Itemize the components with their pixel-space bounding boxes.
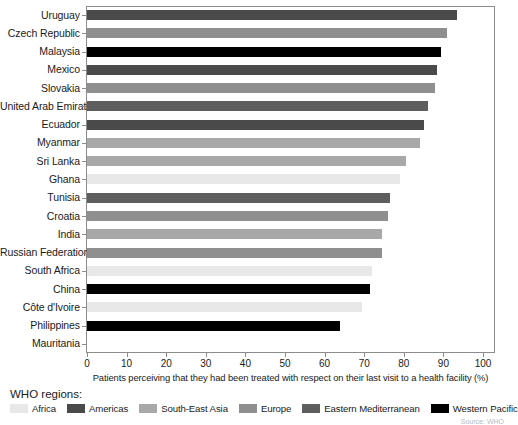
x-axis-tick xyxy=(87,353,88,357)
legend-title: WHO regions: xyxy=(10,388,510,400)
table-row: Croatia xyxy=(0,207,512,225)
table-row: Sri Lanka xyxy=(0,152,512,170)
bar-label-tunisia: Tunisia xyxy=(0,192,80,203)
bar-track xyxy=(87,43,441,61)
legend-swatch-icon xyxy=(67,404,85,413)
x-axis-tick-label: 0 xyxy=(84,358,90,369)
y-axis-tick xyxy=(82,125,86,126)
table-row: South Africa xyxy=(0,262,512,280)
x-axis-tick xyxy=(245,353,246,357)
y-axis-tick xyxy=(82,52,86,53)
bar-label-china: China xyxy=(0,284,80,295)
table-row: United Arab Emirates xyxy=(0,97,512,115)
source-note: Source: WHO xyxy=(461,418,504,425)
x-axis-tick-label: 50 xyxy=(279,358,290,369)
bar xyxy=(87,101,428,111)
legend-item-south-east-asia: South-East Asia xyxy=(139,403,228,414)
bar xyxy=(87,138,420,148)
bar xyxy=(87,321,340,331)
x-axis-tick-label: 10 xyxy=(121,358,132,369)
bar-rows: UruguayCzech RepublicMalaysiaMexicoSlova… xyxy=(0,6,512,353)
bar-label-philippines: Philippines xyxy=(0,320,80,331)
bar-label-mexico: Mexico xyxy=(0,64,80,75)
bar xyxy=(87,211,388,221)
legend-label: Eastern Mediterranean xyxy=(324,403,420,414)
legend-label: Western Pacific xyxy=(453,403,518,414)
bar-label-sri-lanka: Sri Lanka xyxy=(0,156,80,167)
table-row: China xyxy=(0,280,512,298)
y-axis-tick xyxy=(82,88,86,89)
table-row: Tunisia xyxy=(0,189,512,207)
x-axis-tick-label: 40 xyxy=(240,358,251,369)
y-axis-tick xyxy=(82,234,86,235)
bar-label-south-africa: South Africa xyxy=(0,265,80,276)
bar-track xyxy=(87,24,447,42)
table-row: Philippines xyxy=(0,316,512,334)
bar-label-ecuador: Ecuador xyxy=(0,119,80,130)
table-row: Czech Republic xyxy=(0,24,512,42)
bar-label-ghana: Ghana xyxy=(0,174,80,185)
legend-label: Americas xyxy=(89,403,128,414)
bar-track xyxy=(87,97,428,115)
bar-track xyxy=(87,243,382,261)
x-axis-tick xyxy=(404,353,405,357)
bar-label-croatia: Croatia xyxy=(0,211,80,222)
y-axis-tick xyxy=(82,253,86,254)
bar-track xyxy=(87,152,406,170)
bar xyxy=(87,193,390,203)
y-axis-tick xyxy=(82,344,86,345)
bar-track xyxy=(87,170,400,188)
bar-track xyxy=(87,225,382,243)
legend: WHO regions: AfricaAmericasSouth-East As… xyxy=(10,388,510,414)
bar xyxy=(87,284,370,294)
bar-label-india: India xyxy=(0,229,80,240)
legend-item-americas: Americas xyxy=(67,403,128,414)
bar-track xyxy=(87,298,362,316)
x-axis-tick xyxy=(285,353,286,357)
table-row: Russian Federation xyxy=(0,243,512,261)
y-axis-tick xyxy=(82,179,86,180)
legend-swatch-icon xyxy=(302,404,320,413)
x-axis-tick-label: 20 xyxy=(161,358,172,369)
x-axis-tick-label: 80 xyxy=(398,358,409,369)
table-row: Uruguay xyxy=(0,6,512,24)
legend-item-africa: Africa xyxy=(10,403,56,414)
y-axis-tick xyxy=(82,70,86,71)
legend-label: Africa xyxy=(32,403,56,414)
x-axis-tick-label: 30 xyxy=(200,358,211,369)
bar xyxy=(87,156,406,166)
legend-items: AfricaAmericasSouth-East AsiaEuropeEaste… xyxy=(10,403,510,414)
bar-label-c-te-d-ivoire: Côte d'Ivoire xyxy=(0,302,80,313)
y-axis-tick xyxy=(82,216,86,217)
bar xyxy=(87,248,382,258)
table-row: Myanmar xyxy=(0,134,512,152)
x-axis-tick-label: 70 xyxy=(359,358,370,369)
x-axis-tick xyxy=(127,353,128,357)
y-axis-tick xyxy=(82,15,86,16)
bar-label-czech-republic: Czech Republic xyxy=(0,28,80,39)
y-axis-tick xyxy=(82,271,86,272)
bar-track xyxy=(87,134,420,152)
bar-track xyxy=(87,116,424,134)
y-axis-tick xyxy=(82,143,86,144)
legend-swatch-icon xyxy=(239,404,257,413)
table-row: Slovakia xyxy=(0,79,512,97)
bar-track xyxy=(87,262,372,280)
y-axis-tick xyxy=(82,33,86,34)
x-axis-tick-label: 100 xyxy=(475,358,492,369)
bar-label-slovakia: Slovakia xyxy=(0,83,80,94)
bar-label-united-arab-emirates: United Arab Emirates xyxy=(0,101,80,112)
bar xyxy=(87,120,424,130)
bar-label-mauritania: Mauritania xyxy=(0,338,80,349)
y-axis-tick xyxy=(82,289,86,290)
table-row: India xyxy=(0,225,512,243)
legend-label: Europe xyxy=(261,403,291,414)
table-row: Ecuador xyxy=(0,116,512,134)
bar-track xyxy=(87,6,457,24)
legend-swatch-icon xyxy=(139,404,157,413)
bar-track xyxy=(87,280,370,298)
y-axis-tick xyxy=(82,198,86,199)
x-axis-tick xyxy=(443,353,444,357)
bar-track xyxy=(87,316,340,334)
